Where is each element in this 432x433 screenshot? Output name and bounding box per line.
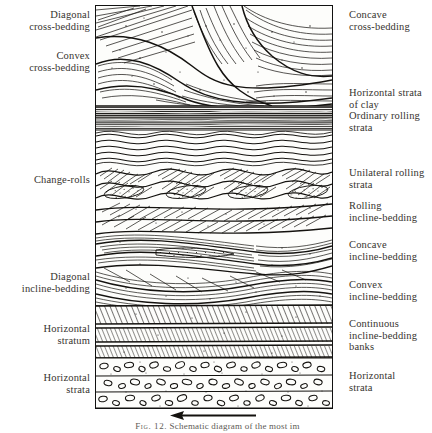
label-convex-cross-bedding: Convex cross-bedding (6, 50, 90, 73)
label-horizontal-strata-left: Horizontal strata (6, 372, 90, 395)
figure-root: Diagonal cross-bedding Convex cross-bedd… (0, 0, 432, 433)
label-unilateral-rolling-strata: Unilateral rolling strata (349, 167, 432, 190)
label-horizontal-strata-of-clay: Horizontal strata of clay (349, 87, 432, 110)
label-concave-incline-bedding: Concave incline-bedding (349, 239, 432, 262)
bedding-diagram-panel (95, 5, 333, 409)
label-convex-incline-bedding: Convex incline-bedding (349, 279, 432, 302)
label-diagonal-incline-bedding: Diagonal incline-bedding (6, 271, 90, 294)
label-continuous-incline-bedding-banks: Continuous incline-bedding banks (349, 318, 432, 353)
current-direction-arrow (170, 408, 256, 421)
label-concave-cross-bedding: Concave cross-bedding (349, 9, 432, 32)
bedding-diagram-svg (96, 6, 332, 408)
label-change-rolls: Change-rolls (6, 174, 90, 186)
figure-number: Fig. 12. (135, 421, 167, 431)
band-horizontal-clay-strata (96, 106, 332, 130)
diagram-content (96, 6, 332, 408)
label-diagonal-cross-bedding: Diagonal cross-bedding (6, 9, 90, 32)
label-rolling-incline-bedding: Rolling incline-bedding (349, 200, 432, 223)
label-horizontal-stratum: Horizontal stratum (6, 323, 90, 346)
label-horizontal-strata-right: Horizontal strata (349, 370, 432, 393)
label-ordinary-rolling-strata: Ordinary rolling strata (349, 110, 432, 133)
figure-caption-text: Schematic diagram of the most im (170, 421, 300, 431)
band-continuous-incline-bedding-banks (96, 305, 332, 358)
band-horizontal-strata-conglomerate (96, 358, 332, 408)
figure-caption: Fig. 12. Schematic diagram of the most i… (95, 421, 340, 433)
